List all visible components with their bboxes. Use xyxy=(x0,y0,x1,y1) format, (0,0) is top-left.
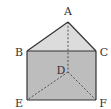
vertex-label-e: E xyxy=(15,97,23,109)
vertex-label-f: F xyxy=(99,97,107,109)
vertex-label-d: D xyxy=(57,64,66,77)
vertex-label-a: A xyxy=(63,5,73,18)
vertex-label-b: B xyxy=(15,46,23,59)
prism-diagram: A B C D E F xyxy=(0,0,111,109)
vertex-label-c: C xyxy=(100,46,108,59)
